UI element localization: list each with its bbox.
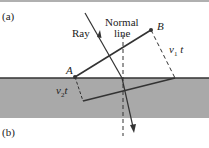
panel-b-label: (b) (2, 127, 15, 138)
normal-label-line2: line (114, 28, 131, 39)
v2t-label: v2t (56, 85, 67, 99)
incident-ray-arrow-icon (97, 30, 102, 38)
point-b-dot (149, 28, 153, 32)
point-a-label: A (66, 65, 73, 76)
panel-a-label: (a) (2, 11, 14, 22)
point-a-dot (73, 75, 77, 79)
top-border (0, 0, 209, 2)
refracted-ray-arrow-icon (130, 124, 136, 133)
v1t-label: v1 t (169, 44, 183, 58)
second-medium (0, 78, 209, 118)
ray-label: Ray (72, 28, 90, 39)
point-b-label: B (157, 21, 164, 32)
